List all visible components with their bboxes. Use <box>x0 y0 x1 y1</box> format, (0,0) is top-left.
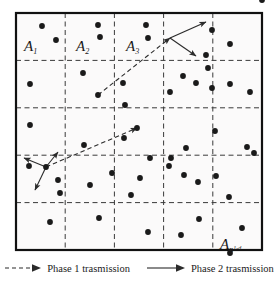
cell-label-a1: A1 <box>24 38 37 56</box>
cell-label-an: An1-d <box>220 236 241 254</box>
network-node <box>87 182 93 188</box>
network-node <box>193 80 199 86</box>
network-node <box>128 192 134 198</box>
network-node <box>145 229 151 235</box>
network-node <box>180 73 186 79</box>
network-node <box>196 216 202 222</box>
network-node <box>120 80 126 86</box>
network-node <box>167 89 173 95</box>
legend-item-phase2: Phase 2 trasmission <box>146 262 274 274</box>
legend: Phase 1 trasmission Phase 2 trasmission <box>0 258 278 278</box>
network-node <box>97 34 103 40</box>
network-node <box>227 41 233 47</box>
dashed-arrow-icon <box>4 262 44 274</box>
network-node <box>181 172 187 178</box>
network-node <box>239 225 245 231</box>
network-node <box>183 145 189 151</box>
legend-item-phase1: Phase 1 trasmission <box>4 262 130 274</box>
network-node <box>134 125 140 131</box>
network-node <box>95 92 101 98</box>
cell-label-a2: A2 <box>76 38 89 56</box>
network-node <box>39 23 45 29</box>
network-node <box>27 81 33 87</box>
network-node <box>244 144 250 150</box>
network-node <box>26 163 32 169</box>
cell-label-a3: A3 <box>126 38 139 56</box>
network-node <box>178 232 184 238</box>
network-node <box>147 155 153 161</box>
network-node <box>247 89 253 95</box>
network-node <box>168 155 174 161</box>
network-node <box>53 37 59 43</box>
network-node <box>137 175 143 181</box>
network-node <box>251 150 257 156</box>
network-node <box>57 190 63 196</box>
legend-label-phase2: Phase 2 trasmission <box>191 263 274 274</box>
network-node <box>209 85 215 91</box>
network-node <box>145 35 151 41</box>
network-node <box>80 70 86 76</box>
network-node <box>81 142 87 148</box>
solid-arrow-icon <box>146 262 188 274</box>
network-node <box>122 102 128 108</box>
legend-label-phase1: Phase 1 trasmission <box>47 263 130 274</box>
network-node <box>121 135 127 141</box>
network-node <box>203 52 209 58</box>
network-node <box>95 22 101 28</box>
network-node <box>205 65 211 71</box>
network-node <box>209 27 215 33</box>
network-node <box>96 215 102 221</box>
network-node <box>166 163 172 169</box>
network-node <box>195 179 201 185</box>
network-node <box>227 81 233 87</box>
grid-transmission-figure: A1A2A3An1-d <box>0 0 278 285</box>
network-node <box>47 219 53 225</box>
network-node <box>226 194 232 200</box>
network-node <box>55 177 61 183</box>
network-node <box>259 0 265 3</box>
network-node <box>27 122 33 128</box>
network-node <box>43 164 49 170</box>
network-node <box>212 128 218 134</box>
network-node <box>109 170 115 176</box>
network-node <box>143 22 149 28</box>
network-node <box>213 173 219 179</box>
